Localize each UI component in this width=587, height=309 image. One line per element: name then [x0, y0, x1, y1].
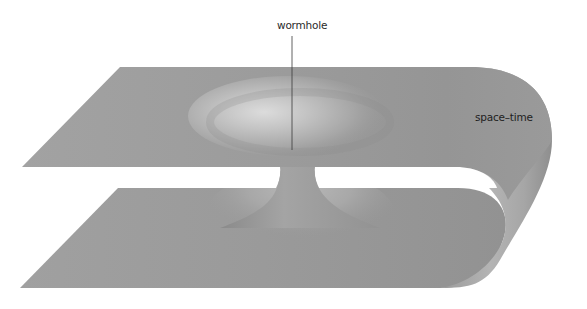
gap-right	[315, 167, 497, 188]
spacetime-label: space–time	[475, 111, 533, 123]
wormhole-diagram	[0, 0, 587, 309]
wormhole-label: wormhole	[277, 19, 327, 31]
gap-left	[14, 167, 280, 188]
